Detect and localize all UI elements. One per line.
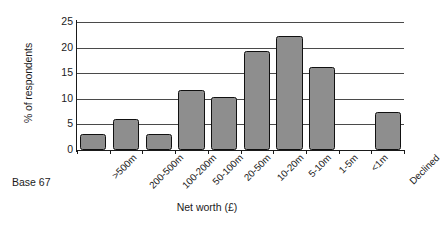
bar: [375, 112, 401, 150]
x-tick-label: 20-50m: [242, 152, 273, 183]
x-axis-tick-labels: >500m200-500m100-200m50-100m20-50m10-20m…: [77, 152, 404, 204]
x-tick-label: <1m: [369, 152, 390, 173]
x-tick-label: 10-20m: [274, 152, 305, 183]
plot-area: [77, 22, 404, 150]
x-axis-tick: [404, 150, 405, 154]
y-tick-label: 15: [47, 66, 73, 78]
y-tick-label: 20: [47, 41, 73, 53]
bar: [309, 67, 335, 150]
bar: [211, 97, 237, 150]
bar: [276, 36, 302, 150]
y-tick-label: 10: [47, 92, 73, 104]
y-tick-label: 5: [47, 117, 73, 129]
x-tick-label: 5-10m: [306, 152, 333, 179]
y-tick-label: 0: [47, 143, 73, 155]
y-axis-tick-labels: 0510152025: [47, 22, 73, 150]
bar: [178, 90, 204, 150]
x-tick-label: 1-5m: [337, 152, 360, 175]
x-tick-label: 200-500m: [147, 152, 186, 191]
base-note: Base 67: [12, 176, 51, 188]
bar: [113, 119, 139, 150]
x-tick-label: 100-200m: [180, 152, 219, 191]
bar: [244, 51, 270, 150]
bar: [146, 134, 172, 150]
x-tick-label: Declined: [407, 152, 441, 186]
x-axis-title: Net worth (£): [0, 201, 414, 213]
bar: [80, 134, 106, 150]
x-tick-label: >500m: [110, 152, 139, 181]
y-tick-label: 25: [47, 15, 73, 27]
bars-container: [77, 22, 404, 150]
y-axis-title: % of respondents: [22, 18, 36, 148]
